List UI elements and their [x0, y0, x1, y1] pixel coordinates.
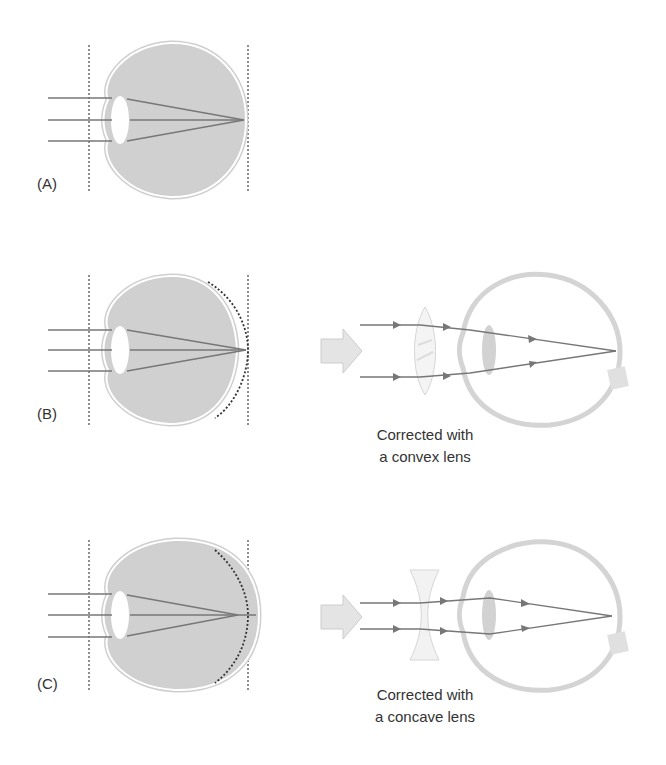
caption-concave: Corrected with a concave lens — [345, 684, 505, 728]
caption-convex: Corrected with a convex lens — [345, 424, 505, 468]
caption-line-2: a convex lens — [345, 446, 505, 468]
convex-lens — [415, 307, 436, 395]
caption-line-1: Corrected with — [345, 424, 505, 446]
light-arrow-icon — [321, 595, 362, 639]
panel-label-c: (C) — [37, 675, 58, 692]
panel-a — [48, 43, 248, 197]
panel-c — [48, 540, 629, 692]
caption-line-2: a concave lens — [345, 706, 505, 728]
panel-label-a: (A) — [37, 175, 57, 192]
panel-b — [48, 274, 629, 425]
panel-label-b: (B) — [37, 405, 57, 422]
caption-line-1: Corrected with — [345, 684, 505, 706]
concave-lens — [410, 570, 439, 660]
light-arrow-icon — [321, 329, 362, 373]
corrected-eyeball-c — [459, 542, 629, 690]
eye-diagram — [0, 0, 666, 765]
